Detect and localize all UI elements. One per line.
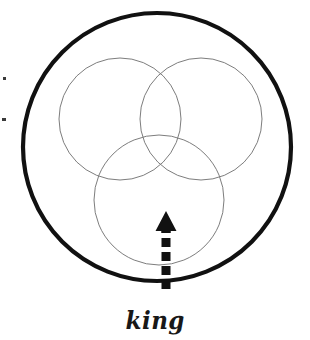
figure-background [0, 0, 310, 340]
venn-diagram-figure: king [0, 0, 310, 340]
venn-diagram-canvas [0, 0, 310, 340]
scan-speck-upper-left [3, 77, 6, 80]
scan-speck-lower-left [2, 118, 6, 121]
